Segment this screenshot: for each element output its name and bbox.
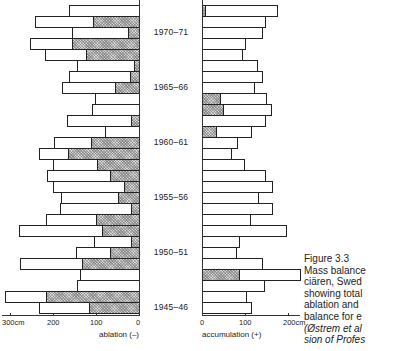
tick-r100 [245,313,246,316]
year-label: 1950–51 [141,247,201,257]
caption-line: Mass balance [304,265,366,277]
tick-label-0-left: 0 [136,318,140,327]
ablation-axis-label: ablation (–) [99,330,139,339]
year-label: 1965–66 [141,82,201,92]
caption-line: ciären, Swed [304,276,366,288]
tick-label-r200: 200cm [283,318,306,327]
year-label: 1945–46 [141,302,201,312]
tick-100 [96,313,97,316]
figure-number: Figure 3.3 [304,253,366,265]
caption-line: showing total [304,288,366,300]
tick-label-200: 200 [47,318,60,327]
mass-balance-chart: 1970–711965–661960–611955–561950–511945–… [0,0,401,351]
accumulation-axis-line [202,0,203,316]
caption-line: balance for e [304,311,366,323]
tick-label-r100: 100 [239,318,252,327]
caption-line: sion of Profes [304,334,366,346]
tick-300 [10,313,11,316]
figure-caption: Figure 3.3 Mass balance ciären, Swed sho… [304,253,366,346]
ablation-x-axis [2,315,140,316]
accumulation-axis-label: accumulation (+) [202,330,261,339]
accumulation-x-axis [202,315,300,316]
tick-r200 [288,313,289,316]
caption-line: ablation and [304,299,366,311]
year-label: 1970–71 [141,27,201,37]
caption-line: (Østrem et al [304,323,366,335]
tick-label-300cm: 300cm [2,318,25,327]
ablation-axis-line [139,0,140,316]
tick-label-100: 100 [90,318,103,327]
tick-label-0-right: 0 [200,318,204,327]
year-label: 1955–56 [141,192,201,202]
year-label: 1960–61 [141,137,201,147]
tick-200 [53,313,54,316]
